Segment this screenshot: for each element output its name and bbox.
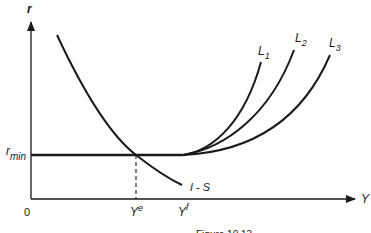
l1-label: L1 [258, 44, 270, 61]
is-curve [57, 35, 182, 185]
y-f-label: Yf [178, 202, 190, 219]
origin-label: 0 [24, 206, 30, 218]
diagram-canvas: r Y 0 rmin Ye Yf I - S L1 L2 L3 Figure 1… [0, 0, 371, 233]
is-curve-label: I - S [190, 181, 211, 193]
l3-curve [183, 55, 330, 155]
l3-label: L3 [329, 36, 341, 53]
l2-label: L2 [295, 31, 307, 48]
r-min-label: rmin [6, 144, 27, 162]
y-axis-label: r [27, 2, 33, 16]
l2-curve [183, 50, 294, 155]
figure-caption: Figure 10.13 [196, 229, 253, 233]
y-e-label: Ye [130, 203, 143, 219]
x-axis-label: Y [361, 192, 370, 206]
